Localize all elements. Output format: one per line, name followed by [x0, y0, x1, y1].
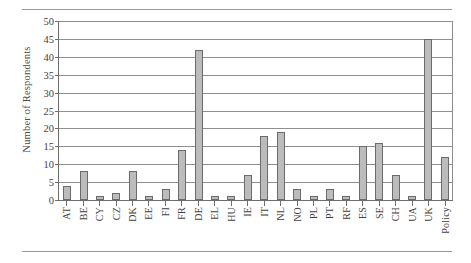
bar-slot	[338, 21, 354, 200]
bar	[408, 196, 416, 200]
y-tick-label: 0	[49, 195, 54, 206]
y-tick-label: 40	[44, 51, 55, 62]
x-label-slot: FR	[173, 207, 189, 253]
x-tick-mark	[247, 201, 248, 206]
x-label-slot: NL	[272, 207, 288, 253]
bar	[375, 143, 383, 200]
x-label-slot: RF	[338, 207, 354, 253]
bar-slot	[125, 21, 141, 200]
x-label-slot: BE	[74, 207, 90, 253]
x-label-slot: IE	[239, 207, 255, 253]
x-tick-label: NO	[291, 207, 302, 222]
bar-slot	[355, 21, 371, 200]
x-tick-mark	[181, 201, 182, 206]
x-label-slot: FI	[157, 207, 173, 253]
bar-slot	[207, 21, 223, 200]
bar	[244, 175, 252, 200]
x-label-slot: PL	[305, 207, 321, 253]
x-tick-mark	[379, 201, 380, 206]
bar	[359, 146, 367, 200]
x-tick-label: IE	[242, 207, 253, 217]
x-label-slot: UA	[404, 207, 420, 253]
bar-slot	[305, 21, 321, 200]
x-tick-mark	[214, 201, 215, 206]
x-tick-mark	[280, 201, 281, 206]
y-tick-label: 45	[44, 33, 55, 44]
bar-slot	[272, 21, 288, 200]
top-divider	[22, 9, 452, 10]
bar-slot	[240, 21, 256, 200]
x-tick-label: Policy	[439, 207, 450, 234]
x-tick-mark	[329, 201, 330, 206]
x-tick-mark	[66, 201, 67, 206]
bar	[63, 186, 71, 200]
bar	[195, 50, 203, 200]
bar-slot	[371, 21, 387, 200]
x-label-slot: CY	[91, 207, 107, 253]
x-tick-label: EL	[209, 207, 220, 220]
y-tick-label: 25	[44, 105, 55, 116]
x-tick-label: PT	[324, 207, 335, 219]
bar-series	[59, 21, 453, 200]
bar	[310, 196, 318, 200]
bar	[260, 136, 268, 200]
bar-slot	[437, 21, 453, 200]
bar	[441, 157, 449, 200]
x-tick-label: CH	[390, 207, 401, 221]
x-tick-label: DK	[127, 207, 138, 222]
x-label-slot: PT	[321, 207, 337, 253]
bar-slot	[174, 21, 190, 200]
bar	[392, 175, 400, 200]
x-tick-label: HU	[225, 207, 236, 222]
y-tick-label: 50	[44, 16, 55, 27]
y-axis-title: Number of Respondents	[21, 10, 32, 190]
x-label-slot: DK	[124, 207, 140, 253]
x-tick-label: FI	[159, 207, 170, 216]
x-tick-label: DE	[192, 207, 203, 221]
x-label-slot: Policy	[436, 207, 452, 253]
x-tick-label: UA	[406, 207, 417, 222]
y-tick-label: 5	[49, 177, 54, 188]
x-tick-label: IT	[258, 207, 269, 217]
x-label-slot: DE	[190, 207, 206, 253]
x-tick-mark	[428, 201, 429, 206]
x-label-slot: NO	[288, 207, 304, 253]
x-axis-labels: ATBECYCZDKEEFIFRDEELHUIEITNLNOPLPTRFESSE…	[58, 207, 453, 253]
x-tick-mark	[116, 201, 117, 206]
x-tick-label: UK	[423, 207, 434, 222]
bar	[424, 39, 432, 200]
x-tick-mark	[99, 201, 100, 206]
y-tick-label: 35	[44, 69, 55, 80]
bar-chart-figure: Number of Respondents 051015202530354045…	[0, 14, 471, 249]
bar-slot	[420, 21, 436, 200]
bar	[277, 132, 285, 200]
x-tick-label: EE	[143, 207, 154, 220]
x-tick-mark	[198, 201, 199, 206]
bar	[178, 150, 186, 200]
x-label-slot: SE	[371, 207, 387, 253]
x-label-slot: UK	[420, 207, 436, 253]
bar-slot	[190, 21, 206, 200]
x-tick-mark	[231, 201, 232, 206]
bar-slot	[404, 21, 420, 200]
bar-slot	[223, 21, 239, 200]
bar-slot	[141, 21, 157, 200]
bar	[293, 189, 301, 200]
bar-slot	[75, 21, 91, 200]
x-tick-label: BE	[77, 207, 88, 220]
bar	[145, 196, 153, 200]
x-tick-label: NL	[275, 207, 286, 221]
x-tick-label: SE	[373, 207, 384, 219]
x-label-slot: CZ	[107, 207, 123, 253]
x-tick-label: AT	[61, 207, 72, 220]
x-tick-mark	[297, 201, 298, 206]
bar-slot	[59, 21, 75, 200]
x-tick-mark	[346, 201, 347, 206]
x-tick-mark	[313, 201, 314, 206]
x-tick-label: CY	[94, 207, 105, 221]
bar	[80, 171, 88, 200]
bar	[227, 196, 235, 200]
bar-slot	[387, 21, 403, 200]
bar-slot	[322, 21, 338, 200]
x-label-slot: EE	[140, 207, 156, 253]
